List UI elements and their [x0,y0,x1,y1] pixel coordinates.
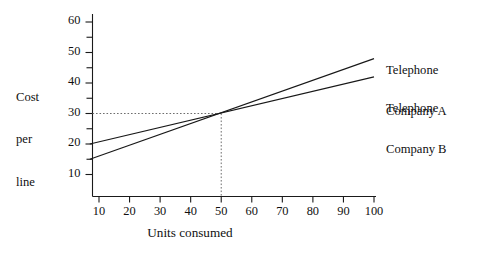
y-axis-title-line-2: per [16,132,39,146]
intersection-guide-lines [93,114,222,197]
x-tick-label-90: 90 [328,205,358,218]
x-tick-label-30: 30 [145,205,175,218]
x-axis-title: Units consumed [0,226,380,240]
y-tick-label-40: 40 [55,75,81,88]
series-line-b [90,77,374,144]
y-tick-label-60: 60 [55,14,81,27]
series-b-label-line-1: Telephone [386,102,447,116]
x-tick-label-100: 100 [359,205,389,218]
series-label-telephone-company-b: Telephone Company B [386,74,447,185]
y-axis-title: Cost per line [16,62,39,217]
chart-container: Cost per line Units consumed Telephone C… [0,0,477,259]
y-tick-label-50: 50 [55,45,81,58]
x-tick-label-50: 50 [206,205,236,218]
series-b-label-line-2: Company B [386,143,447,157]
y-tick-label-20: 20 [55,136,81,149]
y-axis-minor-ticks [87,37,93,159]
x-tick-label-10: 10 [84,205,114,218]
x-tick-label-60: 60 [237,205,267,218]
y-axis-title-line-1: Cost [16,90,39,104]
y-axis-title-line-3: line [16,175,39,189]
x-tick-label-20: 20 [115,205,145,218]
series-lines [90,59,374,160]
x-tick-label-80: 80 [298,205,328,218]
y-tick-label-10: 10 [55,167,81,180]
y-tick-label-30: 30 [55,106,81,119]
x-axis-ticks [99,197,374,203]
series-line-a [90,59,374,160]
x-tick-label-70: 70 [267,205,297,218]
x-tick-label-40: 40 [176,205,206,218]
